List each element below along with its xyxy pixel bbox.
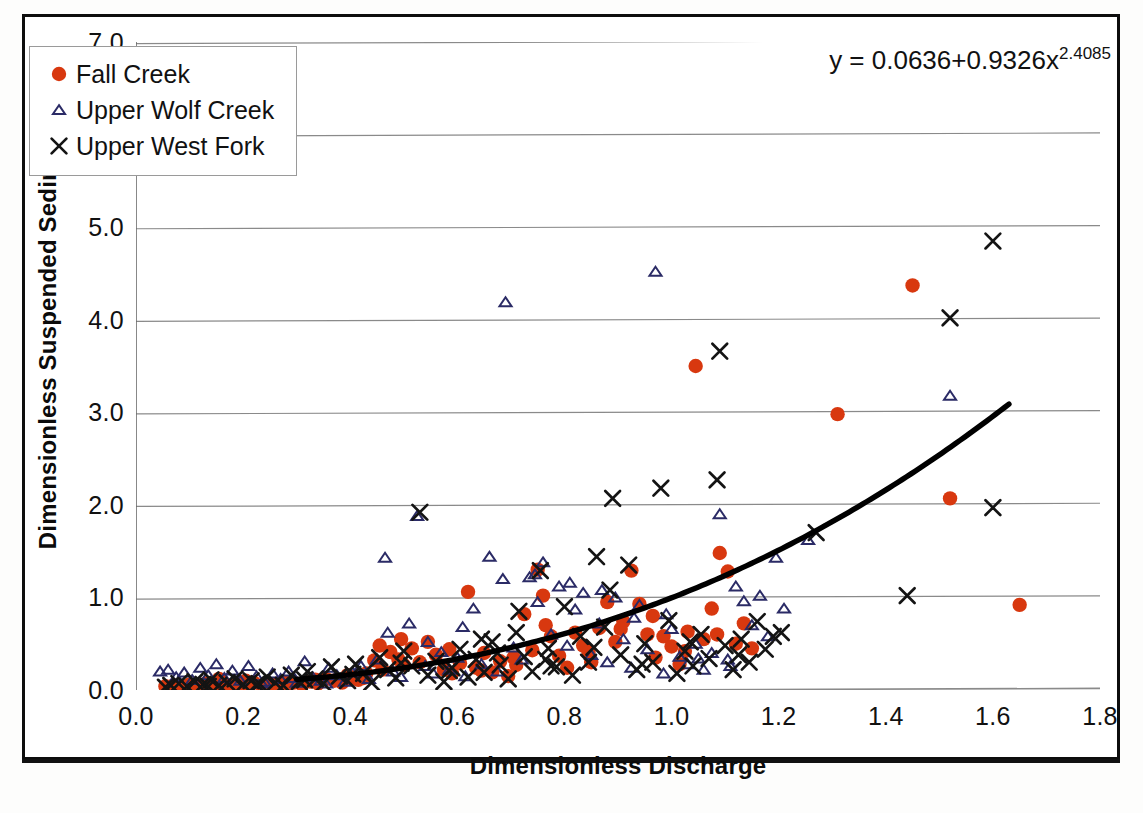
x-tick-label-8: 1.6 [975,702,1011,731]
y-tick-label-0: 0.0 [88,676,124,705]
open-triangle-icon [44,98,74,122]
equation-body: y = 0.0636+0.9326x [829,45,1059,75]
filled-circle-icon [44,62,74,86]
y-tick-label-1: 1.0 [88,583,124,612]
y-tick-label-2: 2.0 [88,490,124,519]
legend-label-1: Upper Wolf Creek [76,96,274,125]
legend-item-0: Fall Creek [44,56,274,92]
figure-container: 0.01.02.03.04.05.06.07.0 0.00.20.40.60.8… [0,0,1143,813]
x-tick-label-3: 0.6 [440,702,476,731]
legend-label-0: Fall Creek [76,60,190,89]
legend-item-2: Upper West Fork [44,128,274,164]
x-tick-label-9: 1.8 [1082,702,1118,731]
equation-exponent: 2.4085 [1059,44,1111,63]
legend-label-2: Upper West Fork [76,132,264,161]
y-tick-label-3: 3.0 [88,398,124,427]
series-upper-wolf-creek [154,267,956,688]
cross-x-icon [44,134,74,158]
y-tick-label-4: 4.0 [88,305,124,334]
x-tick-label-0: 0.0 [118,702,154,731]
x-tick-label-2: 0.4 [332,702,368,731]
trendline-equation-annotation: y = 0.0636+0.9326x2.4085 [829,44,1111,76]
x-axis-title: Dimensionless Discharge [136,752,1100,780]
x-tick-label-5: 1.0 [654,702,690,731]
x-tick-label-7: 1.4 [868,702,904,731]
x-tick-label-4: 0.8 [547,702,583,731]
chart-legend: Fall CreekUpper Wolf CreekUpper West For… [29,46,297,176]
series-upper-west-fork [158,234,1000,690]
x-tick-label-6: 1.2 [761,702,797,731]
y-tick-label-5: 5.0 [88,213,124,242]
x-tick-label-1: 0.2 [225,702,261,731]
legend-item-1: Upper Wolf Creek [44,92,274,128]
